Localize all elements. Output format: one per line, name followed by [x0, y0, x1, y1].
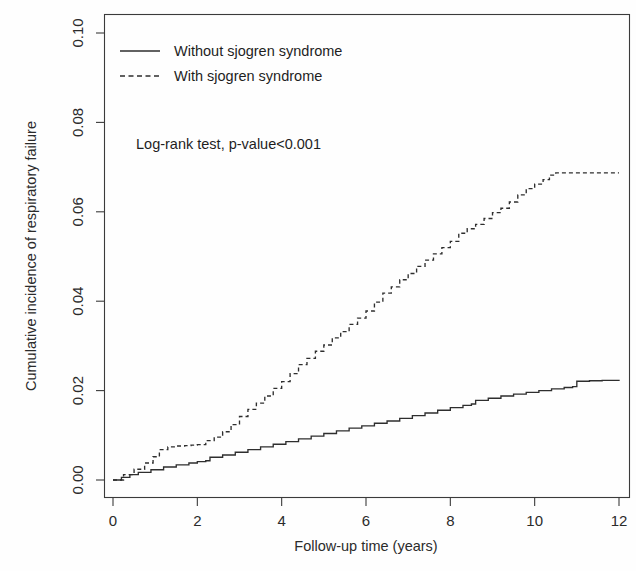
- legend-label-with-sjogren-syndrome: With sjogren syndrome: [174, 68, 322, 84]
- legend-label-without-sjogren-syndrome: Without sjogren syndrome: [174, 43, 342, 59]
- x-tick-label: 2: [193, 512, 201, 529]
- y-axis-title: Cumulative incidence of respiratory fail…: [23, 121, 39, 391]
- log-rank-annotation: Log-rank test, p-value<0.001: [136, 136, 321, 152]
- x-tick-label: 12: [611, 512, 628, 529]
- y-tick-label: 0.06: [69, 197, 86, 226]
- series-line-without-sjogren-syndrome: [113, 380, 619, 480]
- y-tick-label: 0.02: [69, 376, 86, 405]
- x-tick-label: 8: [446, 512, 454, 529]
- y-tick-label: 0.10: [69, 18, 86, 47]
- x-tick-label: 4: [277, 512, 285, 529]
- x-axis-ticks: 024681012: [109, 498, 628, 530]
- plot-frame: [105, 15, 630, 498]
- y-tick-label: 0.04: [69, 287, 86, 316]
- y-axis-ticks: 0.000.020.040.060.080.10: [69, 18, 105, 494]
- data-curves: [113, 173, 619, 480]
- x-tick-label: 10: [526, 512, 543, 529]
- x-tick-label: 6: [362, 512, 370, 529]
- series-line-with-sjogren-syndrome: [113, 173, 619, 480]
- x-axis-title: Follow-up time (years): [294, 538, 437, 554]
- cumulative-incidence-chart: 0.000.020.040.060.080.10 024681012 Follo…: [0, 0, 636, 571]
- x-tick-label: 0: [109, 512, 117, 529]
- y-tick-label: 0.08: [69, 108, 86, 137]
- y-tick-label: 0.00: [69, 465, 86, 494]
- legend: Without sjogren syndrome With sjogren sy…: [120, 43, 342, 84]
- chart-svg: 0.000.020.040.060.080.10 024681012 Follo…: [0, 0, 636, 571]
